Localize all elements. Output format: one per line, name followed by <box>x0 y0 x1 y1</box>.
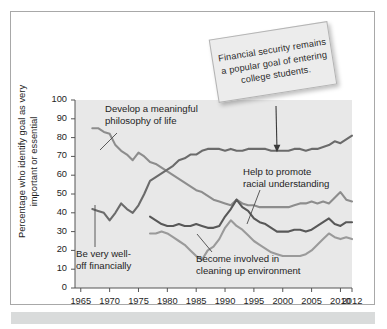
x-tick-1970: 1970 <box>95 296 125 306</box>
annotation-racial-understanding: Help to promote racial understanding <box>243 166 329 189</box>
x-tick-2005: 2005 <box>297 296 327 306</box>
y-tick-10: 10 <box>45 263 67 273</box>
x-tick-1965: 1965 <box>66 296 96 306</box>
annotation-environment: Become involved in cleaning up environme… <box>196 253 301 276</box>
x-tick-2000: 2000 <box>268 296 298 306</box>
y-tick-100: 100 <box>45 94 67 104</box>
y-tick-0: 0 <box>45 282 67 292</box>
y-tick-70: 70 <box>45 150 67 160</box>
x-tick-1995: 1995 <box>239 296 269 306</box>
y-tick-60: 60 <box>45 169 67 179</box>
x-tick-1985: 1985 <box>181 296 211 306</box>
y-axis-label: Percentage who identify goal as very imp… <box>16 72 39 252</box>
x-tick-1980: 1980 <box>152 296 182 306</box>
x-tick-2012: 2012 <box>337 296 367 306</box>
y-tick-30: 30 <box>45 226 67 236</box>
x-tick-1990: 1990 <box>210 296 240 306</box>
y-tick-20: 20 <box>45 244 67 254</box>
y-tick-50: 50 <box>45 188 67 198</box>
x-tick-1975: 1975 <box>123 296 153 306</box>
y-tick-40: 40 <box>45 207 67 217</box>
annotation-financial: Be very well- off financially <box>76 248 131 271</box>
figure-container: Percentage who identify goal as very imp… <box>0 0 387 329</box>
figure-footer-bar <box>11 312 375 324</box>
annotation-philosophy: Develop a meaningful philosophy of life <box>105 103 198 126</box>
y-tick-80: 80 <box>45 132 67 142</box>
y-tick-90: 90 <box>45 113 67 123</box>
